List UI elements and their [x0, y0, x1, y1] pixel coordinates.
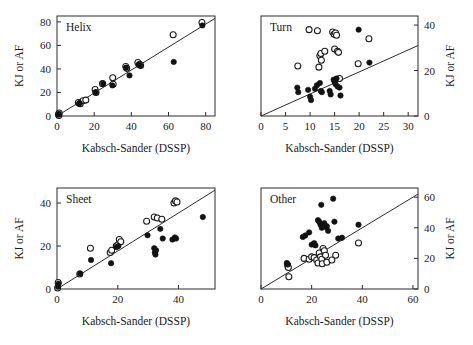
- data-point: [367, 60, 372, 65]
- y-tick-label: 80: [40, 16, 52, 28]
- x-tick-label: 5: [283, 120, 289, 132]
- data-point: [356, 27, 361, 32]
- scatter-panel-turn: 05101520253002040TurnKabsch-Sander (DSSP…: [237, 0, 473, 172]
- x-tick-label: 20: [306, 293, 318, 305]
- x-tick-label: 60: [407, 293, 419, 305]
- data-point: [123, 65, 128, 70]
- data-point: [173, 236, 178, 241]
- data-point: [306, 230, 311, 235]
- data-point: [325, 228, 330, 233]
- y-tick-label: 20: [40, 240, 52, 252]
- data-point: [333, 252, 339, 258]
- x-tick-label: 40: [173, 293, 185, 305]
- data-point: [336, 49, 342, 55]
- data-point: [56, 111, 61, 116]
- data-point: [153, 248, 158, 253]
- data-point: [110, 83, 115, 88]
- series-filled-circles: [55, 214, 205, 289]
- y-axis-title: KJ or AF: [444, 45, 456, 87]
- x-tick-label: 30: [403, 120, 415, 132]
- series-open-circles: [285, 240, 362, 280]
- panel-label: Turn: [270, 21, 292, 33]
- y-tick-label: 0: [424, 110, 430, 122]
- x-axis-title: Kabsch-Sander (DSSP): [82, 142, 190, 155]
- y-axis-title: KJ or AF: [444, 217, 456, 259]
- y-axis-title: KJ or AF: [13, 45, 25, 87]
- data-point: [200, 214, 205, 219]
- data-point: [158, 226, 163, 231]
- data-point: [339, 235, 344, 240]
- data-point: [77, 100, 82, 105]
- data-point: [319, 202, 324, 207]
- x-axis-title: Kabsch-Sander (DSSP): [285, 315, 393, 328]
- data-point: [337, 85, 342, 90]
- data-point: [200, 23, 205, 28]
- data-point: [334, 76, 339, 81]
- data-point: [313, 243, 318, 248]
- x-tick-label: 20: [112, 293, 124, 305]
- data-point: [330, 196, 335, 201]
- data-point: [77, 271, 82, 276]
- panel-label: Other: [270, 193, 296, 205]
- series-open-circles: [295, 27, 372, 82]
- x-tick-label: 20: [354, 120, 366, 132]
- data-point: [355, 61, 361, 67]
- data-point: [334, 32, 340, 38]
- panel-label: Sheet: [66, 193, 92, 205]
- data-point: [108, 261, 113, 266]
- data-point: [285, 262, 290, 267]
- panel-label: Helix: [66, 21, 92, 33]
- data-point: [355, 240, 361, 246]
- x-tick-label: 15: [329, 120, 341, 132]
- y-tick-label: 60: [40, 39, 52, 51]
- data-point: [56, 281, 61, 286]
- data-point: [366, 36, 372, 42]
- scatter-panel-sheet: 0204002040SheetKabsch-Sander (DSSP)KJ or…: [0, 172, 237, 345]
- data-point: [305, 87, 310, 92]
- data-point: [170, 32, 176, 38]
- data-point: [322, 48, 328, 54]
- data-point: [356, 222, 361, 227]
- data-point: [110, 75, 116, 81]
- data-point: [316, 64, 322, 70]
- data-point: [87, 245, 93, 251]
- y-tick-label: 40: [424, 222, 436, 234]
- fit-line: [261, 194, 418, 289]
- x-axis-title: Kabsch-Sander (DSSP): [82, 315, 190, 328]
- data-point: [116, 243, 121, 248]
- x-tick-label: 0: [258, 293, 264, 305]
- data-point: [171, 59, 176, 64]
- data-point: [127, 73, 132, 78]
- data-point: [144, 218, 150, 224]
- y-axis-title: KJ or AF: [13, 217, 25, 259]
- data-point: [88, 257, 93, 262]
- data-point: [286, 274, 292, 280]
- data-point: [100, 81, 105, 86]
- x-tick-label: 60: [163, 120, 175, 132]
- data-point: [328, 92, 333, 97]
- y-tick-label: 60: [424, 191, 436, 203]
- data-point: [296, 89, 301, 94]
- x-tick-label: 20: [89, 120, 101, 132]
- y-tick-label: 40: [424, 19, 436, 31]
- data-point: [159, 216, 165, 222]
- data-point: [314, 28, 320, 34]
- data-point: [93, 90, 98, 95]
- data-point: [308, 97, 313, 102]
- y-tick-label: 0: [424, 283, 430, 295]
- y-tick-label: 40: [40, 63, 52, 75]
- x-tick-label: 10: [305, 120, 317, 132]
- figure-panel-grid: 020406080020406080HelixKabsch-Sander (DS…: [0, 0, 473, 345]
- data-point: [338, 93, 343, 98]
- x-tick-label: 0: [54, 293, 60, 305]
- y-tick-label: 0: [46, 283, 52, 295]
- data-point: [174, 199, 180, 205]
- scatter-panel-other: 02040600204060OtherKabsch-Sander (DSSP)K…: [237, 172, 473, 345]
- x-tick-label: 80: [200, 120, 212, 132]
- x-tick-label: 40: [357, 293, 369, 305]
- data-point: [160, 236, 165, 241]
- data-point: [83, 97, 89, 103]
- x-tick-label: 25: [378, 120, 390, 132]
- y-tick-label: 20: [424, 65, 436, 77]
- x-tick-label: 40: [126, 120, 138, 132]
